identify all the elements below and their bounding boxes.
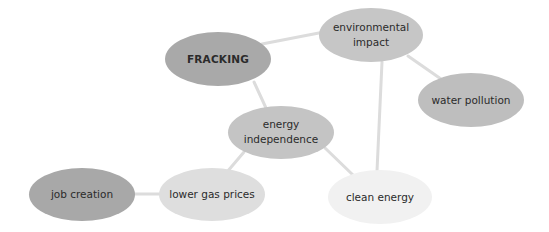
node-label-job-creation: job creation <box>51 187 113 202</box>
node-label-water-pollution: water pollution <box>432 93 511 108</box>
edge-energy-independence-clean-energy <box>325 148 353 175</box>
node-environmental-impact: environmental impact <box>319 8 423 62</box>
node-clean-energy: clean energy <box>328 170 432 224</box>
edge-environmental-impact-water-pollution <box>408 56 441 79</box>
node-label-environmental-impact: environmental impact <box>333 20 409 50</box>
node-job-creation: job creation <box>29 168 135 221</box>
edge-fracking-energy-independence <box>254 82 266 108</box>
node-lower-gas-prices: lower gas prices <box>159 168 265 221</box>
node-label-fracking: FRACKING <box>187 52 249 67</box>
node-label-clean-energy: clean energy <box>346 190 414 205</box>
node-water-pollution: water pollution <box>418 73 524 127</box>
node-energy-independence: energy independence <box>228 106 334 159</box>
edge-environmental-impact-clean-energy <box>377 62 382 171</box>
edge-fracking-environmental-impact <box>262 32 324 44</box>
node-label-energy-independence: energy independence <box>244 117 319 147</box>
node-fracking: FRACKING <box>165 32 271 86</box>
concept-map: FRACKING environmental impact water poll… <box>0 0 549 232</box>
node-label-lower-gas-prices: lower gas prices <box>169 187 255 202</box>
